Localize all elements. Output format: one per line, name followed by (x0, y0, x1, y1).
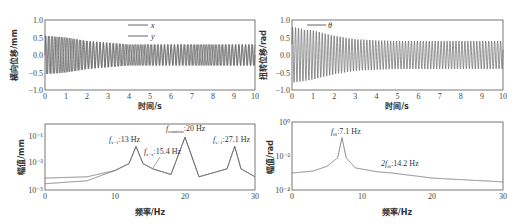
panel-lateral-displacement: 1.0 0.5 0.0 −0.5 −1.0 012345678910 时间/s … (9, 16, 259, 111)
x-axis-label: 时间/s (385, 101, 409, 111)
annotation-f-s-plus-x: fs+x:15.4 Hz (144, 147, 182, 157)
x-tick: 9 (480, 92, 484, 101)
x-tick: 10 (111, 192, 119, 201)
x-tick: 3 (353, 92, 357, 101)
y-axis-label: 扭转位移/rad (258, 30, 268, 80)
x-tick: 0 (43, 192, 47, 201)
x-tick: 10 (251, 92, 259, 101)
x-axis-label: 频率/Hz (382, 207, 413, 217)
x-tick: 10 (499, 92, 507, 101)
y-tick: 10⁻³ (29, 158, 44, 167)
panel-torsional-displacement: 1.0 0.5 0.0 −0.5 −1.0 012345678910 时间/s … (258, 16, 507, 111)
y-axis-label: 幅值/mm (16, 139, 26, 175)
x-tick: 7 (438, 92, 442, 101)
x-axis-label: 频率/Hz (135, 207, 166, 217)
y-tick: 10⁰ (279, 118, 290, 127)
annotation-2f-t0: 2ft0:14.2 Hz (381, 159, 419, 169)
y-tick: 0.5 (280, 34, 290, 43)
y-axis-label: 幅值/rad (265, 140, 275, 174)
x-tick: 4 (127, 92, 131, 101)
annotation-f-s-minus-1: fs−1:13 Hz (109, 135, 141, 145)
annotation-pointer (153, 157, 160, 168)
y-tick: 10⁻⁵ (28, 186, 43, 195)
x-tick: 8 (459, 92, 463, 101)
x-tick: 2 (85, 92, 89, 101)
annotation-f-t0: ft0:7.1 Hz (331, 127, 361, 137)
panel-lateral-spectrum: 10⁻¹ 10⁻³ 10⁻⁵ 0 10 20 30 频率/Hz 幅值/mm fs… (16, 124, 259, 217)
legend: x y (128, 21, 155, 41)
y-tick: 0.5 (33, 34, 43, 43)
x-tick: 0 (43, 92, 47, 101)
legend: θ (304, 21, 332, 30)
lateral-displacement-series (45, 36, 255, 74)
x-tick: 3 (106, 92, 110, 101)
panel-torsional-spectrum: 10⁰ 10⁻² 10⁻⁴ 0 10 20 30 频率/Hz 幅值/rad ft… (265, 118, 507, 217)
y-tick: 1.0 (33, 16, 43, 25)
lateral-spectrum-series (45, 137, 255, 184)
x-tick: 5 (396, 92, 400, 101)
y-tick: 10⁻¹ (29, 132, 44, 141)
x-tick: 6 (169, 92, 173, 101)
annotation-f-rotation: frotation:20 Hz (166, 124, 206, 134)
y-tick: −1.0 (275, 86, 290, 95)
x-tick: 4 (374, 92, 378, 101)
x-axis-label: 时间/s (138, 101, 162, 111)
x-tick: 9 (232, 92, 236, 101)
x-tick: 0 (290, 192, 294, 201)
x-tick: 5 (148, 92, 152, 101)
x-tick: 7 (190, 92, 194, 101)
x-tick: 8 (211, 92, 215, 101)
figure: 1.0 0.5 0.0 −0.5 −1.0 012345678910 时间/s … (0, 0, 521, 224)
x-tick: 10 (358, 192, 366, 201)
y-tick: −0.5 (275, 69, 290, 78)
legend-label-y: y (150, 32, 155, 41)
y-tick: 0.0 (280, 51, 290, 60)
x-tick: 1 (311, 92, 315, 101)
x-tick: 0 (290, 92, 294, 101)
torsional-displacement-series (292, 27, 503, 82)
x-tick: 1 (64, 92, 68, 101)
x-tick: 30 (251, 192, 259, 201)
legend-label-x: x (150, 21, 155, 30)
y-tick: 1.0 (280, 16, 290, 25)
plot-frame (45, 124, 255, 190)
y-tick: −0.5 (28, 69, 43, 78)
legend-label-theta: θ (328, 21, 332, 30)
x-tick: 20 (181, 192, 189, 201)
y-tick: 10⁻⁴ (275, 186, 290, 195)
y-tick: −1.0 (28, 86, 43, 95)
x-tick: 2 (332, 92, 336, 101)
y-tick: 0.0 (33, 51, 43, 60)
y-axis-label: 横向位移/mm (9, 29, 19, 81)
x-tick: 6 (417, 92, 421, 101)
annotation-f-s-plus-1: fs+1:27.1 Hz (213, 135, 251, 145)
y-tick: 10⁻² (276, 152, 291, 161)
x-tick: 30 (499, 192, 507, 201)
x-tick: 20 (428, 192, 436, 201)
